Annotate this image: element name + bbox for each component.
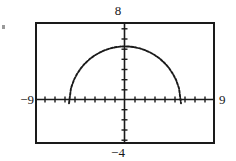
window-xmax-label: 9 <box>219 93 235 106</box>
graphing-calculator-screenshot: 8 −9 9 −4 <box>0 0 236 161</box>
window-ymin-label: −4 <box>0 146 236 159</box>
scan-artifact <box>2 25 5 29</box>
graph-viewing-window <box>35 22 215 144</box>
window-ymax-label: 8 <box>0 4 236 17</box>
window-xmin-label: −9 <box>8 93 34 106</box>
